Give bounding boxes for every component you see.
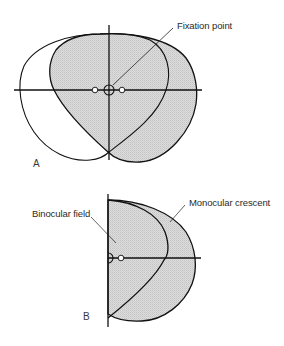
- panel-a: [14, 25, 202, 162]
- visual-field-diagram: [0, 0, 284, 346]
- right-blind-spot: [119, 87, 125, 93]
- left-blind-spot: [92, 87, 98, 93]
- panel-a-letter: A: [33, 159, 40, 169]
- panel-b: [91, 194, 201, 327]
- blind-spot-b: [118, 255, 124, 261]
- monocular-crescent-label: Monocular crescent: [189, 198, 270, 208]
- fixation-point-label: Fixation point: [177, 21, 232, 31]
- panel-b-letter: B: [83, 312, 90, 322]
- monocular-leader-line: [170, 205, 185, 222]
- right-eye-field: [50, 34, 197, 162]
- binocular-field-label: Binocular field: [32, 209, 90, 219]
